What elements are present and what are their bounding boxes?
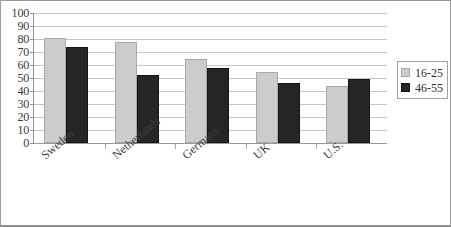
x-axis-tick-label: UK [251, 141, 273, 162]
x-axis: SwedenNetherlandsGermanyUKU.S. [33, 144, 386, 224]
bar-group [316, 13, 387, 143]
y-axis-tick-label: 40 [17, 85, 29, 97]
bar [326, 86, 348, 143]
y-axis-tick-label: 90 [17, 20, 29, 32]
y-axis-tick-label: 80 [17, 33, 29, 45]
y-axis-tick-label: 0 [23, 137, 29, 149]
bar [44, 38, 66, 143]
y-axis-tick-label: 10 [17, 124, 29, 136]
bar-group [105, 13, 176, 143]
y-axis: 1009080706050403020100 [1, 1, 31, 227]
bar [348, 79, 370, 143]
y-axis-tick-label: 100 [12, 7, 29, 19]
bar [115, 42, 137, 143]
y-axis-tick-label: 20 [17, 111, 29, 123]
legend-swatch-icon [401, 68, 410, 77]
legend: 16-2546-55 [397, 61, 448, 99]
legend-item: 16-25 [401, 65, 443, 80]
bar-group [246, 13, 317, 143]
y-axis-tick-label: 60 [17, 59, 29, 71]
legend-swatch-icon [401, 83, 410, 92]
bar-chart: 1009080706050403020100 SwedenNetherlands… [0, 0, 451, 227]
y-axis-tick-label: 70 [17, 46, 29, 58]
y-axis-tick-label: 30 [17, 98, 29, 110]
legend-item-label: 46-55 [415, 82, 443, 94]
bar [256, 72, 278, 144]
bar [278, 83, 300, 143]
y-axis-tick-label: 50 [17, 72, 29, 84]
legend-item: 46-55 [401, 80, 443, 95]
plot-area [33, 13, 387, 143]
bar-group [34, 13, 105, 143]
legend-item-label: 16-25 [415, 67, 443, 79]
